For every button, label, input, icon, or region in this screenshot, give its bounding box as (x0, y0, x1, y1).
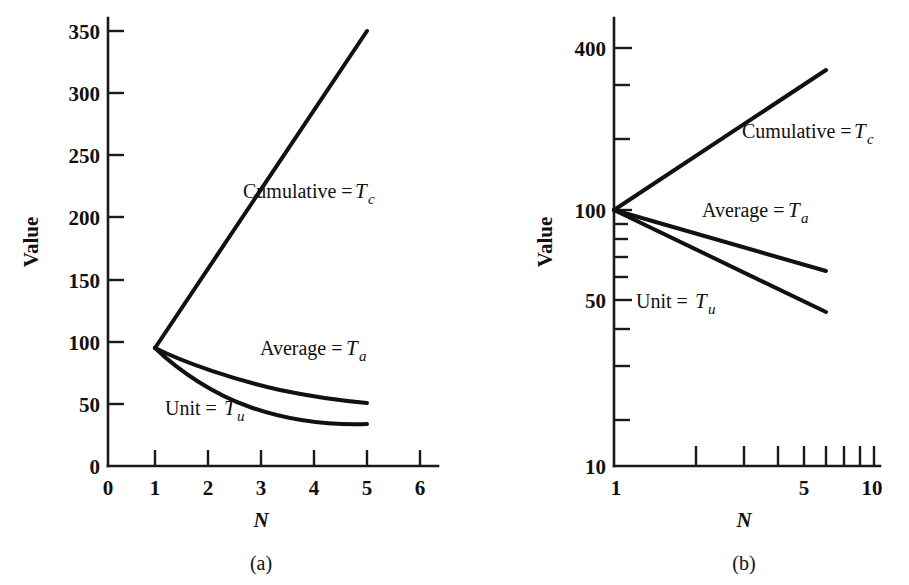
panel-b-x-ticks (696, 446, 874, 466)
panel-b-label-cumulative: Cumulative = T c (742, 119, 874, 147)
panel-b-label-unit-sub: u (708, 301, 716, 317)
panel-b-ytick-50: 50 (585, 289, 606, 313)
panel-a-label-cumulative-var: T (355, 179, 368, 203)
panel-b-xtick-5: 5 (799, 476, 810, 500)
panel-b-ytick-100: 100 (575, 199, 607, 223)
panel-a-xtick-1: 1 (150, 476, 161, 500)
panel-b-x-axis-title: N (735, 508, 752, 532)
panel-b: 400 100 50 10 1 5 10 (533, 18, 883, 575)
panel-a-x-ticklabels: 0 1 2 3 4 5 6 (103, 476, 426, 500)
panel-b-y-axis-title: Value (533, 217, 557, 268)
panel-a-ytick-150: 150 (69, 269, 101, 293)
panel-a-label-average-sub: a (359, 348, 367, 364)
panel-b-label-unit: Unit = T u (636, 289, 716, 317)
panel-a-ytick-250: 250 (69, 144, 101, 168)
panel-a-x-axis-title: N (252, 508, 269, 532)
panel-a: 350 300 250 200 150 100 50 0 0 1 2 3 4 5… (19, 18, 438, 575)
panel-a-caption: (a) (250, 552, 272, 575)
panel-b-label-unit-text: Unit = (636, 290, 688, 312)
panel-a-label-unit: Unit = T u (165, 396, 245, 424)
panel-a-x-ticks (155, 450, 420, 466)
panel-b-label-average-text: Average = (702, 199, 785, 222)
panel-a-y-axis-title: Value (19, 217, 43, 268)
panel-a-ytick-300: 300 (69, 82, 101, 106)
panel-a-xtick-5: 5 (362, 476, 373, 500)
panel-a-label-cumulative: Cumulative = T c (243, 179, 375, 207)
panel-a-y-ticklabels: 350 300 250 200 150 100 50 0 (69, 20, 101, 479)
panel-a-ytick-0: 0 (90, 455, 101, 479)
panel-a-label-cumulative-sub: c (368, 191, 375, 207)
panel-a-xtick-3: 3 (256, 476, 267, 500)
panel-a-ytick-50: 50 (79, 393, 100, 417)
panel-a-xtick-0: 0 (103, 476, 114, 500)
panel-b-ytick-10: 10 (585, 455, 606, 479)
figure-container: 350 300 250 200 150 100 50 0 0 1 2 3 4 5… (0, 0, 909, 585)
panel-a-xtick-6: 6 (415, 476, 426, 500)
panel-a-ytick-100: 100 (69, 331, 101, 355)
panel-b-label-cumulative-var: T (854, 119, 867, 143)
panel-b-y-ticks (614, 48, 632, 420)
panel-a-y-ticks (108, 31, 124, 404)
panel-a-ytick-200: 200 (69, 206, 101, 230)
panel-b-ytick-400: 400 (575, 37, 607, 61)
panel-a-label-unit-text: Unit = (165, 397, 217, 419)
panel-b-label-cumulative-text: Cumulative = (742, 120, 852, 142)
panel-a-xtick-4: 4 (309, 476, 320, 500)
panel-a-label-cumulative-text: Cumulative = (243, 180, 353, 202)
panel-b-xtick-10: 10 (862, 476, 883, 500)
panel-b-y-ticklabels: 400 100 50 10 (575, 37, 607, 479)
panel-a-label-average-var: T (346, 336, 359, 360)
panel-b-label-average-sub: a (801, 210, 809, 226)
panel-b-label-cumulative-sub: c (867, 131, 874, 147)
panel-b-label-average-var: T (788, 198, 801, 222)
panel-b-x-ticklabels: 1 5 10 (611, 476, 883, 500)
panel-a-label-average-text: Average = (260, 337, 343, 360)
panel-b-xtick-1: 1 (611, 476, 622, 500)
panel-b-label-unit-var: T (695, 289, 708, 313)
panel-a-xtick-2: 2 (203, 476, 214, 500)
panel-a-label-unit-var: T (224, 396, 237, 420)
panel-a-label-average: Average = T a (260, 336, 367, 364)
panel-a-label-unit-sub: u (237, 408, 245, 424)
panel-b-label-average: Average = T a (702, 198, 809, 226)
panel-a-ytick-350: 350 (69, 20, 101, 44)
panel-b-caption: (b) (732, 552, 755, 575)
